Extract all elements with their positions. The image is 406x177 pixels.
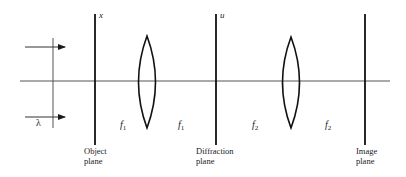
focal-length-label-f1-left: f1	[120, 119, 126, 132]
object-plane-axis-letter: x	[99, 10, 103, 20]
object-plane-label-line2: plane	[84, 157, 107, 167]
wavelength-label: λ	[36, 118, 41, 128]
lens-2-icon	[283, 37, 300, 128]
image-plane-label: Image plane	[356, 147, 377, 166]
focal-length-label-f1-right: f1	[178, 119, 184, 132]
focal-length-label-f2-right: f2	[325, 119, 331, 132]
image-plane-label-line2: plane	[356, 157, 377, 167]
diffraction-plane-label: Diffraction plane	[196, 147, 234, 166]
diffraction-plane-axis-letter: u	[220, 10, 225, 20]
object-plane-label: Object plane	[84, 147, 107, 166]
focal-length-label-f2-left: f2	[252, 119, 258, 132]
lens-1-icon	[139, 36, 156, 128]
diffraction-plane-label-line2: plane	[196, 157, 234, 167]
